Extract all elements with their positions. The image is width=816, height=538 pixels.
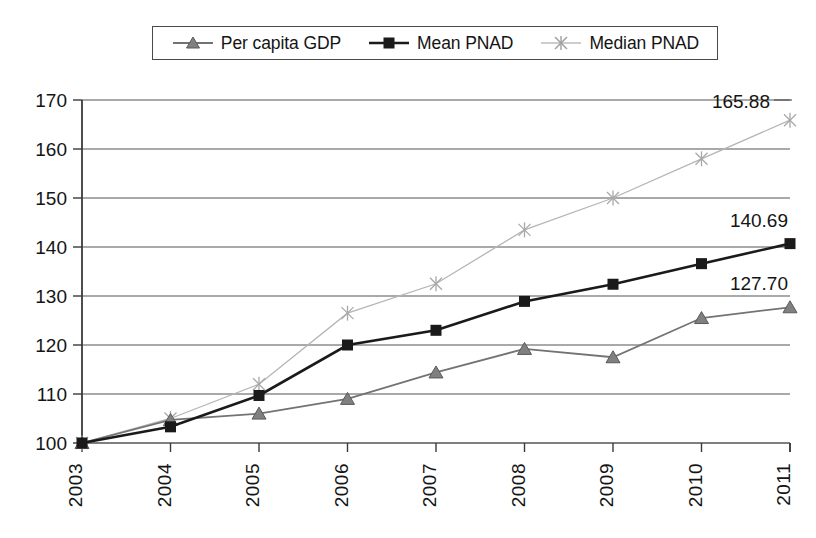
y-axis-tick-label: 150 xyxy=(35,188,67,209)
x-axis-tick-label: 2003 xyxy=(65,463,86,507)
end-value-label: 165.88 xyxy=(712,91,770,112)
y-axis-tick-label: 160 xyxy=(35,139,67,160)
y-axis-tick-label: 130 xyxy=(35,286,67,307)
y-axis-ticks: 100110120130140150160170 xyxy=(35,90,82,454)
x-axis-tick-label: 2005 xyxy=(242,463,263,507)
y-axis-tick-label: 110 xyxy=(37,384,67,405)
axis-lines xyxy=(82,100,790,452)
series-per-capita-gdp xyxy=(75,301,797,449)
series-median-pnad xyxy=(76,113,796,451)
x-axis-tick-label: 2006 xyxy=(331,463,352,507)
y-axis-tick-label: 170 xyxy=(35,90,67,111)
y-axis-tick-label: 120 xyxy=(35,335,67,356)
chart-plot-area: 100110120130140150160170 200320042005200… xyxy=(0,0,816,538)
y-axis-tick-label: 100 xyxy=(35,433,67,454)
x-axis-ticks: 200320042005200620072008200920102011 xyxy=(65,443,794,507)
x-axis-tick-label: 2008 xyxy=(508,463,529,507)
x-axis-tick-label: 2004 xyxy=(154,463,175,507)
end-value-label: 127.70 xyxy=(730,273,788,294)
x-axis-tick-label: 2011 xyxy=(773,463,794,506)
x-axis-tick-label: 2007 xyxy=(419,463,440,507)
x-axis-tick-label: 2010 xyxy=(685,463,706,507)
series-mean-pnad xyxy=(77,238,796,448)
y-axis-tick-label: 140 xyxy=(35,237,67,258)
end-value-label: 140.69 xyxy=(730,210,788,231)
x-axis-tick-label: 2009 xyxy=(596,463,617,507)
chart-container: Per capita GDP Mean PNAD xyxy=(0,0,816,538)
data-series-group xyxy=(75,113,797,451)
end-value-labels: 165.88140.69127.70 xyxy=(712,91,792,294)
gridlines xyxy=(82,100,790,443)
